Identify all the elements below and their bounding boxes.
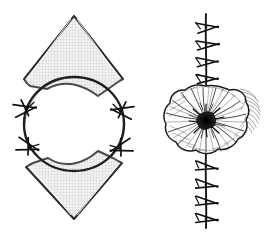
surgical-closure-figure: Purse-string and rhomboid flap closure o… (0, 0, 266, 235)
circular-defect (24, 77, 124, 171)
